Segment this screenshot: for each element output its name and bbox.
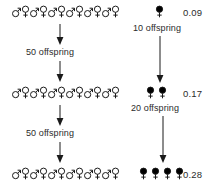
right-transition-1-label: 10 offspring — [133, 24, 181, 33]
male-symbol-icon — [30, 4, 39, 22]
female-symbol-icon — [39, 166, 48, 184]
female-symbol-icon — [75, 4, 84, 22]
male-symbol-icon — [12, 166, 21, 184]
female-symbol-icon — [57, 166, 66, 184]
male-symbol-icon — [102, 166, 111, 184]
male-symbol-icon — [48, 166, 57, 184]
female-symbol-icon — [158, 85, 167, 103]
left-generation-1-row — [12, 4, 120, 22]
left-arrow-3 — [54, 105, 66, 127]
right-generation-2-value: 0.17 — [183, 89, 202, 99]
right-transition-2-label: 20 offspring — [131, 104, 179, 113]
inbreeding-generations-diagram: 50 offspring 50 offspring 0.09 10 offspr… — [0, 0, 215, 193]
male-symbol-icon — [66, 4, 75, 22]
female-symbol-icon — [75, 85, 84, 103]
female-symbol-icon — [163, 166, 172, 184]
right-arrow-2 — [157, 116, 169, 164]
female-symbol-icon — [111, 85, 120, 103]
female-symbol-icon — [21, 85, 30, 103]
left-arrow-1 — [54, 24, 66, 46]
left-transition-1-label: 50 offspring — [26, 48, 74, 57]
female-symbol-icon — [21, 166, 30, 184]
right-generation-3-row — [139, 166, 187, 184]
right-generation-1-value: 0.09 — [183, 8, 202, 18]
female-symbol-icon — [111, 166, 120, 184]
male-symbol-icon — [66, 166, 75, 184]
male-symbol-icon — [102, 85, 111, 103]
male-symbol-icon — [66, 85, 75, 103]
male-symbol-icon — [102, 4, 111, 22]
male-symbol-icon — [84, 85, 93, 103]
left-generation-3-row — [12, 166, 120, 184]
female-symbol-icon — [21, 4, 30, 22]
male-symbol-icon — [84, 166, 93, 184]
right-arrow-1 — [154, 36, 166, 84]
left-arrow-4 — [54, 142, 66, 164]
female-symbol-icon — [93, 166, 102, 184]
male-symbol-icon — [30, 166, 39, 184]
male-symbol-icon — [84, 4, 93, 22]
left-transition-2-label: 50 offspring — [26, 129, 74, 138]
female-symbol-icon — [93, 85, 102, 103]
female-symbol-icon — [151, 166, 160, 184]
female-symbol-icon — [155, 4, 164, 22]
right-generation-2-row — [146, 85, 170, 103]
female-symbol-icon — [75, 166, 84, 184]
male-symbol-icon — [48, 85, 57, 103]
female-symbol-icon — [111, 4, 120, 22]
right-generation-3-value: 0.28 — [183, 170, 202, 180]
female-symbol-icon — [93, 4, 102, 22]
female-symbol-icon — [39, 4, 48, 22]
male-symbol-icon — [48, 4, 57, 22]
male-symbol-icon — [12, 4, 21, 22]
right-generation-1-row — [155, 4, 167, 22]
female-symbol-icon — [57, 85, 66, 103]
female-symbol-icon — [39, 85, 48, 103]
female-symbol-icon — [139, 166, 148, 184]
left-generation-2-row — [12, 85, 120, 103]
female-symbol-icon — [146, 85, 155, 103]
male-symbol-icon — [12, 85, 21, 103]
left-arrow-2 — [54, 61, 66, 83]
male-symbol-icon — [30, 85, 39, 103]
female-symbol-icon — [57, 4, 66, 22]
